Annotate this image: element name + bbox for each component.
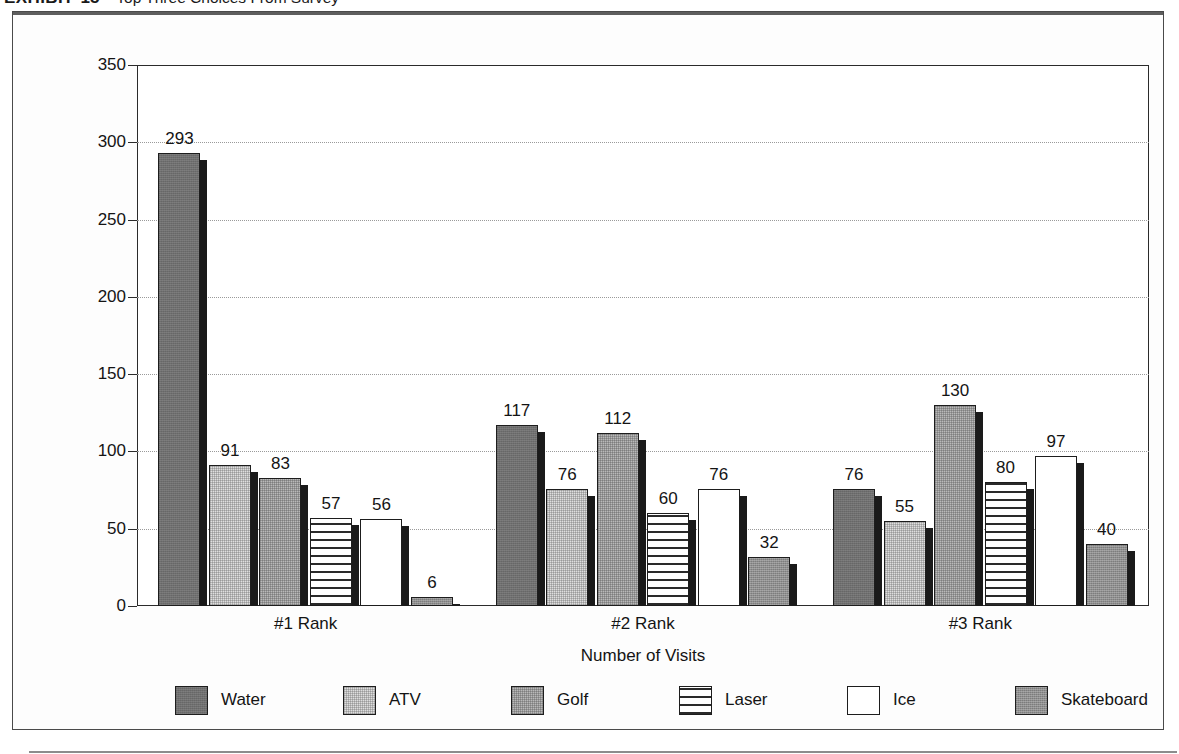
bar-skateboard-2[interactable] xyxy=(748,557,790,606)
legend-label: Water xyxy=(221,690,266,710)
bar-value-label: 76 xyxy=(532,465,602,485)
bar-atv-3[interactable] xyxy=(884,521,926,606)
legend-swatch-ice xyxy=(847,686,880,715)
chart-card: Number Chosen 050100150200250300350 2939… xyxy=(12,11,1164,730)
y-axis-tick-label: 250 xyxy=(66,210,126,230)
bar-atv-1[interactable] xyxy=(209,465,251,606)
bar-shadow xyxy=(250,472,258,606)
exhibit-number: 15 xyxy=(81,0,100,7)
bar-atv-2[interactable] xyxy=(546,489,588,606)
x-axis-label-1: #1 Rank xyxy=(137,614,474,634)
y-axis-tick-label: 0 xyxy=(66,596,126,616)
bar-shadow xyxy=(401,526,409,606)
bar-value-label: 55 xyxy=(870,497,940,517)
bar-skateboard-3[interactable] xyxy=(1086,544,1128,606)
bar-value-label: 6 xyxy=(397,573,467,593)
y-axis-tick xyxy=(128,606,137,607)
bar-shadow xyxy=(789,564,797,606)
legend-label: Skateboard xyxy=(1061,690,1148,710)
exhibit-title-strip: EXHIBIT 15 Top Three Choices From Survey xyxy=(0,0,1179,11)
bar-shadow xyxy=(587,496,595,606)
legend-swatch-golf xyxy=(511,686,544,715)
gridline xyxy=(137,142,1149,143)
bar-value-label: 56 xyxy=(346,495,416,515)
legend-item-golf[interactable]: Golf xyxy=(511,684,588,716)
bar-value-label: 60 xyxy=(633,489,703,509)
legend-label: ATV xyxy=(389,690,421,710)
x-axis-label-3: #3 Rank xyxy=(812,614,1149,634)
bar-shadow xyxy=(1026,489,1034,606)
bar-value-label: 76 xyxy=(819,465,889,485)
y-axis-tick-label: 200 xyxy=(66,287,126,307)
bar-shadow xyxy=(1127,551,1135,606)
gridline xyxy=(137,374,1149,375)
legend-item-laser[interactable]: Laser xyxy=(679,684,768,716)
bar-water-1[interactable] xyxy=(158,153,200,606)
y-axis-tick xyxy=(128,142,137,143)
bar-value-label: 97 xyxy=(1021,432,1091,452)
bar-value-label: 32 xyxy=(734,533,804,553)
x-axis-title: Number of Visits xyxy=(137,646,1149,666)
plot-area: 050100150200250300350 293918357566117761… xyxy=(137,65,1149,606)
exhibit-label: EXHIBIT xyxy=(4,0,74,7)
y-axis-tick-label: 300 xyxy=(66,132,126,152)
bar-shadow xyxy=(638,440,646,606)
y-axis-tick xyxy=(128,220,137,221)
bar-value-label: 40 xyxy=(1072,520,1142,540)
bar-value-label: 112 xyxy=(583,409,653,429)
bar-shadow xyxy=(452,604,460,606)
bar-shadow xyxy=(351,525,359,606)
bar-value-label: 80 xyxy=(971,458,1041,478)
bar-shadow xyxy=(925,528,933,606)
y-axis-tick xyxy=(128,451,137,452)
y-axis-tick xyxy=(128,529,137,530)
legend-label: Laser xyxy=(725,690,768,710)
legend-swatch-skateboard xyxy=(1015,686,1048,715)
y-axis-tick-label: 50 xyxy=(66,519,126,539)
bar-golf-2[interactable] xyxy=(597,433,639,606)
bar-value-label: 130 xyxy=(920,381,990,401)
y-axis-tick-label: 150 xyxy=(66,364,126,384)
legend-swatch-atv xyxy=(343,686,376,715)
y-axis-tick-label: 100 xyxy=(66,441,126,461)
bar-value-label: 76 xyxy=(684,465,754,485)
legend-label: Ice xyxy=(893,690,916,710)
card-bottom-rule xyxy=(29,751,1177,753)
y-axis-tick-label: 350 xyxy=(66,55,126,75)
legend-item-skateboard[interactable]: Skateboard xyxy=(1015,684,1148,716)
bar-laser-1[interactable] xyxy=(310,518,352,606)
bar-value-label: 117 xyxy=(482,401,552,421)
legend-item-water[interactable]: Water xyxy=(175,684,266,716)
legend-label: Golf xyxy=(557,690,588,710)
y-axis-tick xyxy=(128,297,137,298)
exhibit-title: Top Three Choices From Survey xyxy=(116,0,339,6)
legend-item-atv[interactable]: ATV xyxy=(343,684,421,716)
bar-shadow xyxy=(688,520,696,606)
legend-item-ice[interactable]: Ice xyxy=(847,684,916,716)
bar-laser-3[interactable] xyxy=(985,482,1027,606)
gridline xyxy=(137,220,1149,221)
bar-shadow xyxy=(537,432,545,606)
legend-swatch-laser xyxy=(679,686,712,715)
legend-swatch-water xyxy=(175,686,208,715)
bar-shadow xyxy=(199,160,207,606)
bar-laser-2[interactable] xyxy=(647,513,689,606)
y-axis-tick xyxy=(128,65,137,66)
gridline xyxy=(137,297,1149,298)
bar-shadow xyxy=(975,412,983,606)
bar-ice-1[interactable] xyxy=(360,519,402,606)
x-axis-label-2: #2 Rank xyxy=(474,614,811,634)
bar-value-label: 293 xyxy=(144,129,214,149)
chart-legend: WaterATVGolfLaserIceSkateboard xyxy=(137,684,1149,718)
bar-skateboard-1[interactable] xyxy=(411,597,453,606)
bar-value-label: 83 xyxy=(245,454,315,474)
bar-water-2[interactable] xyxy=(496,425,538,606)
y-axis-tick xyxy=(128,374,137,375)
bar-golf-3[interactable] xyxy=(934,405,976,606)
